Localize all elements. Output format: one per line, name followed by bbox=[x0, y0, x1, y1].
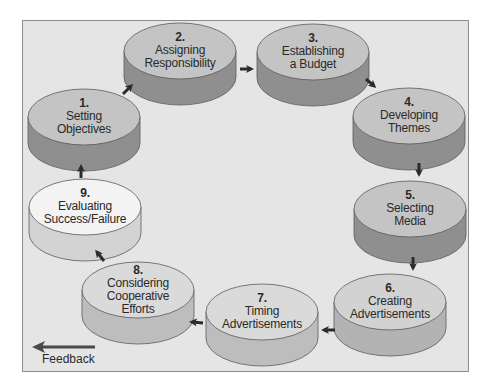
flow-arrows bbox=[0, 0, 491, 391]
arrow-1-to-2 bbox=[123, 86, 131, 94]
arrow-7-to-8 bbox=[192, 322, 203, 323]
feedback-legend-label: Feedback bbox=[42, 352, 95, 366]
arrow-3-to-4 bbox=[366, 79, 374, 86]
arrow-8-to-9 bbox=[97, 252, 104, 261]
diagram-canvas: 1. Setting Objectives 2. Assigning Respo… bbox=[0, 0, 491, 391]
